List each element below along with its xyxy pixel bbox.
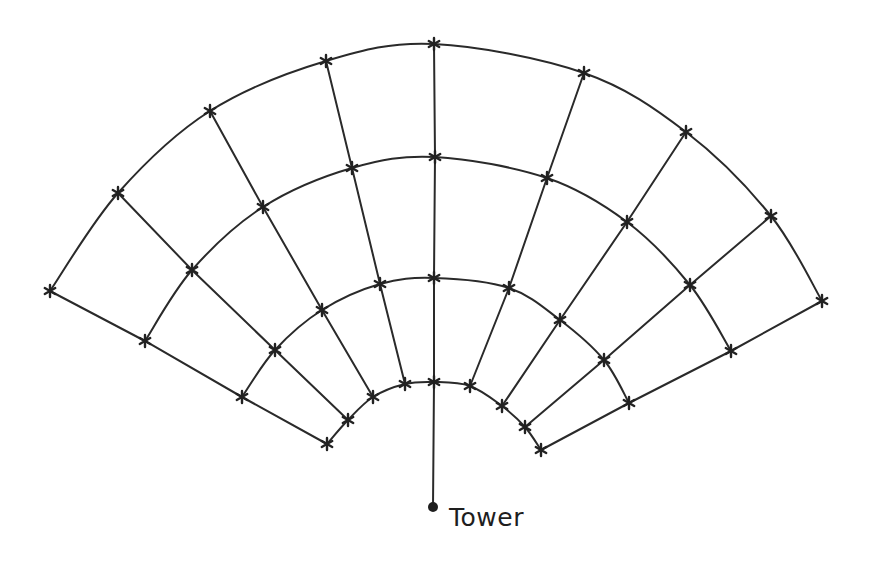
radial-line-6 <box>470 73 584 386</box>
asterisk-marker-icon <box>347 162 357 174</box>
radial-line-2 <box>118 193 348 420</box>
radial-line-1 <box>50 291 327 444</box>
asterisk-marker-icon <box>726 345 736 357</box>
asterisk-marker-icon <box>579 67 589 79</box>
radial-lines <box>50 44 822 450</box>
asterisk-marker-icon <box>368 391 378 403</box>
asterisk-marker-icon <box>321 55 331 67</box>
radial-line-5 <box>434 44 435 382</box>
asterisk-marker-icon <box>504 282 514 294</box>
grid-point-markers <box>45 38 827 456</box>
radial-line-9 <box>541 301 822 450</box>
tower-center-line <box>433 382 434 507</box>
tower-line <box>433 382 434 507</box>
polar-grid-diagram <box>0 0 872 561</box>
ring-4-outer-arc <box>50 44 822 301</box>
ring-3-arc <box>145 157 731 351</box>
asterisk-marker-icon <box>205 105 215 117</box>
asterisk-marker-icon <box>624 397 634 409</box>
asterisk-marker-icon <box>258 201 268 213</box>
arc-lines <box>50 44 822 450</box>
tower-point-icon <box>428 502 438 512</box>
asterisk-marker-icon <box>542 172 552 184</box>
tower-label: Tower <box>449 503 524 532</box>
asterisk-marker-icon <box>317 304 327 316</box>
asterisk-marker-icon <box>465 380 475 392</box>
asterisk-marker-icon <box>817 295 827 307</box>
